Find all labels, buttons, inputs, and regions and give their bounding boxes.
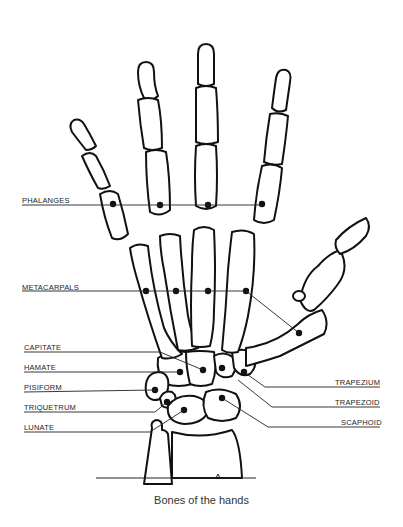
- forearm-bones: [96, 420, 256, 484]
- phalanx-bones: [70, 44, 369, 311]
- carpal-bones: [146, 350, 256, 424]
- figure-caption: Bones of the hands: [0, 494, 403, 506]
- label-pisiform: PISIFORM: [24, 383, 62, 392]
- label-hamate: HAMATE: [24, 363, 56, 372]
- label-metacarpals: METACARPALS: [22, 283, 79, 292]
- hand-bones-diagram: [0, 0, 403, 527]
- label-phalanges: PHALANGES: [22, 196, 70, 205]
- label-scaphoid: SCAPHOID: [341, 418, 382, 427]
- label-trapezium: TRAPEZIUM: [335, 378, 380, 387]
- label-lunate: LUNATE: [24, 423, 54, 432]
- label-trapezoid: TRAPEZOID: [335, 398, 380, 407]
- label-triquetrum: TRIQUETRUM: [24, 403, 76, 412]
- label-capitate: CAPITATE: [24, 343, 61, 352]
- hand-skeleton-illustration: [0, 0, 403, 527]
